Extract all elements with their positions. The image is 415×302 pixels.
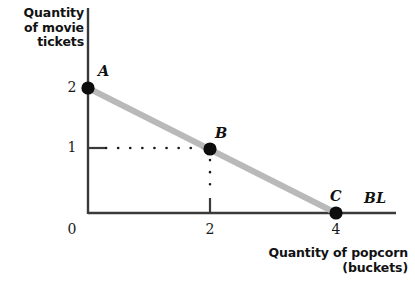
budget-line-figure: Quantity of movie tickets Quantity of po… <box>0 0 415 302</box>
y-tick-label-1: 1 <box>62 139 82 155</box>
point-label-b: B <box>215 124 227 141</box>
data-point-c <box>329 206 342 219</box>
point-label-a: A <box>98 62 109 79</box>
y-tick-label-2: 2 <box>62 79 82 95</box>
data-point-b <box>203 142 216 155</box>
origin-label: 0 <box>62 221 82 237</box>
x-tick-label-2: 2 <box>200 221 220 237</box>
point-label-c: C <box>330 187 342 204</box>
data-point-a <box>81 81 94 94</box>
budget-line-label: BL <box>364 190 387 206</box>
x-tick-label-4: 4 <box>326 221 346 237</box>
